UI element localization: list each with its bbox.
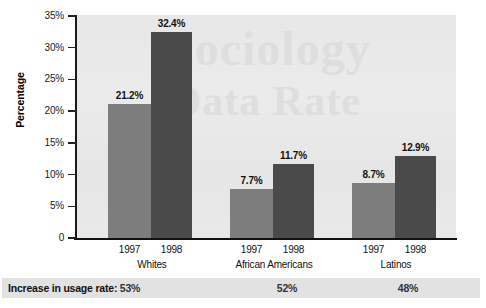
- footer-label: Increase in usage rate:: [8, 282, 117, 294]
- x-tick-label-year: 1997: [229, 244, 275, 255]
- y-tick-label: 15%: [30, 137, 64, 148]
- bar-african-americans-1998: [273, 164, 314, 238]
- x-axis-line: [74, 238, 457, 240]
- y-tick-mark: [68, 110, 76, 112]
- y-tick-mark: [68, 15, 76, 17]
- bar-value-label: 7.7%: [228, 175, 276, 186]
- x-tick-label-year: 1997: [107, 244, 153, 255]
- y-tick-mark: [68, 47, 76, 49]
- bar-latinos-1998: [395, 156, 436, 238]
- x-tick-label-year: 1998: [149, 244, 195, 255]
- x-group-label: Whites: [92, 259, 212, 270]
- bar-value-label: 21.2%: [106, 90, 154, 101]
- y-tick-label: 0: [30, 232, 64, 243]
- x-tick-label-year: 1998: [393, 244, 439, 255]
- x-group-label: Latinos: [336, 259, 456, 270]
- y-tick-mark: [68, 237, 76, 239]
- footer-value: 53%: [105, 282, 155, 294]
- bar-value-label: 12.9%: [392, 142, 440, 153]
- y-tick-label: 5%: [30, 200, 64, 211]
- bar-value-label: 11.7%: [270, 150, 318, 161]
- bar-whites-1998: [151, 32, 192, 238]
- y-tick-label: 30%: [30, 42, 64, 53]
- chart-root: Sociology Data Rate Percentage 35%30%25%…: [0, 0, 486, 308]
- footer-value: 48%: [383, 282, 433, 294]
- x-tick-label-year: 1997: [351, 244, 397, 255]
- bar-value-label: 32.4%: [148, 18, 196, 29]
- watermark-text-line2: Data Rate: [171, 77, 361, 125]
- bar-latinos-1997: [352, 183, 395, 238]
- y-axis-title: Percentage: [14, 60, 26, 140]
- watermark-text-line1: Sociology: [167, 21, 371, 76]
- y-tick-label: 25%: [30, 73, 64, 84]
- y-tick-label: 35%: [30, 10, 64, 21]
- y-tick-label: 20%: [30, 105, 64, 116]
- y-tick-mark: [68, 142, 76, 144]
- y-tick-label: 10%: [30, 169, 64, 180]
- y-tick-mark: [68, 174, 76, 176]
- footer-value: 52%: [262, 282, 312, 294]
- y-tick-mark: [68, 206, 76, 208]
- x-group-label: African Americans: [214, 259, 334, 270]
- bar-value-label: 8.7%: [350, 169, 398, 180]
- y-tick-mark: [68, 79, 76, 81]
- x-tick-label-year: 1998: [271, 244, 317, 255]
- bar-african-americans-1997: [230, 189, 273, 238]
- bar-whites-1997: [108, 104, 151, 238]
